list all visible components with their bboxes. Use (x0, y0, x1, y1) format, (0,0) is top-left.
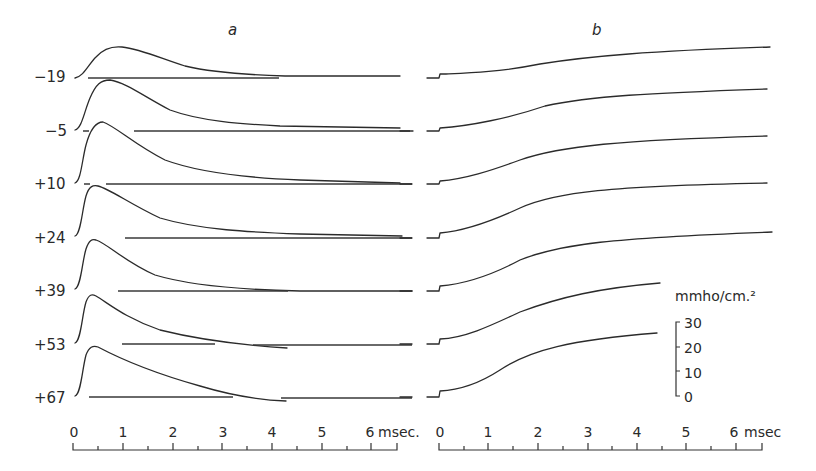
row-label: +53 (34, 336, 66, 354)
panel-b-traces (400, 47, 772, 397)
trace-b-minus19 (427, 47, 770, 78)
row-labels: −19 −5 +10 +24 +39 +53 +67 (34, 68, 67, 407)
trace-b-plus53 (400, 283, 660, 344)
tick-label: 6 (730, 424, 739, 440)
row-label: −5 (45, 122, 67, 140)
scale-tick-label: 20 (684, 340, 702, 356)
row-label: +10 (34, 175, 66, 193)
tick-label: 5 (682, 424, 691, 440)
trace-a-plus67 (75, 346, 286, 401)
axis-unit: msec (744, 424, 781, 440)
row-label: +67 (34, 389, 66, 407)
scale-tick-label: 10 (684, 365, 702, 381)
row-label: +39 (34, 282, 66, 300)
trace-b-plus10 (400, 136, 767, 184)
tick-label: 5 (318, 424, 327, 440)
tick-label: 3 (219, 424, 228, 440)
row-label: +24 (34, 229, 66, 247)
tick-label: 2 (169, 424, 178, 440)
trace-a-plus24 (75, 186, 402, 236)
time-axis-b: 0 1 2 3 4 5 6 msec (436, 424, 782, 450)
trace-b-minus5 (400, 89, 767, 131)
panel-a-traces (75, 47, 412, 401)
tick-label: 4 (268, 424, 277, 440)
conductance-scale: mmho/cm.² 30 20 10 0 (675, 288, 756, 405)
tick-label: 0 (436, 424, 445, 440)
units-label: mmho/cm.² (675, 288, 756, 304)
tick-label: 2 (534, 424, 543, 440)
tick-label: 4 (633, 424, 642, 440)
row-label: −19 (34, 68, 66, 86)
tick-label: 1 (119, 424, 128, 440)
trace-b-plus39 (400, 232, 772, 291)
trace-a-plus39 (75, 240, 412, 291)
trace-b-plus24 (400, 183, 767, 238)
baseline-a (122, 344, 412, 345)
panel-a-title: a (228, 21, 237, 39)
axis-unit: msec. (378, 424, 420, 440)
scale-tick-label: 30 (684, 315, 702, 331)
time-axis-a: 0 1 2 3 4 5 6 msec. (70, 424, 420, 450)
trace-a-minus19 (75, 47, 400, 78)
axis-line (73, 443, 397, 450)
tick-label: 1 (484, 424, 493, 440)
trace-a-plus53 (75, 295, 287, 348)
trace-b-plus67 (400, 333, 657, 397)
scale-bar (676, 322, 680, 396)
tick-label: 0 (70, 424, 79, 440)
tick-label: 3 (584, 424, 593, 440)
scale-tick-label: 0 (684, 389, 693, 405)
tick-label: 6 (366, 424, 375, 440)
panel-b-title: b (592, 21, 602, 39)
figure: a b −19 −5 +10 +24 +39 +53 +67 (0, 0, 816, 471)
axis-line (439, 443, 762, 450)
trace-a-minus5 (75, 80, 400, 130)
